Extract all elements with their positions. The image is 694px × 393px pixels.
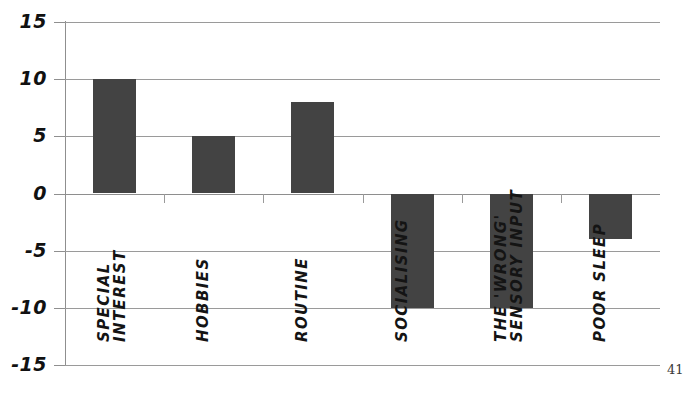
y-tick-label: 10	[0, 67, 47, 89]
category-label-line: POOR SLEEP	[593, 222, 609, 341]
gridline-5	[65, 136, 660, 137]
y-axis-tick	[54, 365, 65, 366]
category-label-line: ROUTINE	[295, 257, 311, 342]
bar	[291, 102, 334, 193]
x-axis-tick	[561, 194, 562, 203]
y-axis-tick	[54, 22, 65, 23]
category-label-line: HOBBIES	[196, 257, 212, 342]
category-label: SPECIALINTEREST	[97, 249, 129, 342]
y-tick-label: 15	[0, 10, 47, 32]
category-label: THE 'WRONG'SENSORY INPUT	[494, 188, 526, 341]
y-tick-label: -15	[0, 353, 47, 375]
bar	[93, 79, 136, 193]
category-label-line: INTEREST	[113, 249, 129, 342]
bar-chart: 151050-5-10-15SPECIALINTERESTHOBBIESROUT…	[0, 0, 694, 393]
gridline-neg10	[65, 308, 660, 309]
category-label: POOR SLEEP	[593, 222, 609, 341]
y-axis-tick	[54, 251, 65, 252]
y-axis-tick	[54, 194, 65, 195]
category-label-line: SENSORY INPUT	[510, 188, 526, 341]
category-label: HOBBIES	[196, 257, 212, 342]
y-tick-label: -10	[0, 296, 47, 318]
gridline-15	[65, 22, 660, 23]
x-axis-tick	[164, 194, 165, 203]
y-axis-tick	[54, 308, 65, 309]
gridline-neg15	[65, 365, 660, 366]
category-label: ROUTINE	[295, 257, 311, 342]
category-label: SOCIALISING	[395, 218, 411, 342]
category-label-line: SOCIALISING	[395, 218, 411, 342]
y-tick-label: 5	[0, 124, 47, 146]
y-axis-tick	[54, 136, 65, 137]
y-tick-label: 0	[0, 182, 47, 204]
y-axis-tick	[54, 79, 65, 80]
gridline-10	[65, 79, 660, 80]
x-axis-tick	[363, 194, 364, 203]
x-axis-tick	[263, 194, 264, 203]
y-tick-label: -5	[0, 239, 47, 261]
page-number: 41	[667, 362, 684, 377]
gridline-neg5	[65, 251, 660, 252]
x-axis-tick	[462, 194, 463, 203]
bar	[192, 136, 235, 193]
